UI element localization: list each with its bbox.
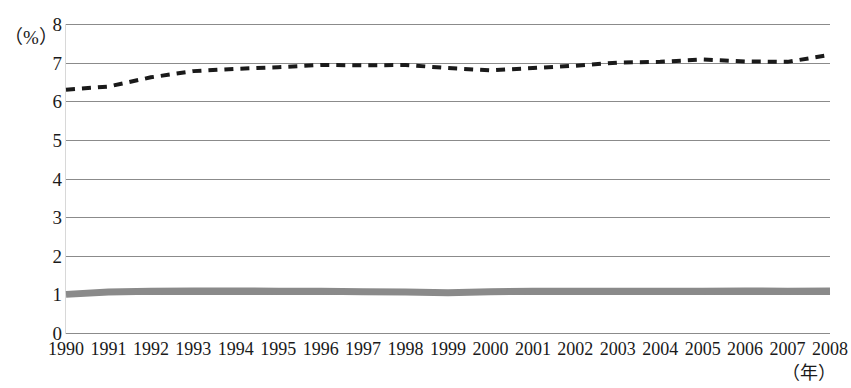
x-axis-tick-labels: 1990199119921993199419951996199719981999…: [66, 340, 830, 366]
x-tick-label: 1990: [45, 340, 87, 358]
y-tick-label: 4: [36, 170, 62, 189]
x-tick-label: 2007: [766, 340, 808, 358]
gridline: [66, 333, 830, 334]
x-tick-label: 2006: [724, 340, 766, 358]
x-tick-label: 1993: [172, 340, 214, 358]
cropped-title-remnant: [140, 0, 400, 2]
series-line-solid-gray-series: [66, 291, 830, 294]
x-tick-label: 2002: [554, 340, 596, 358]
y-tick-label: 3: [36, 208, 62, 227]
y-tick-label: 7: [36, 54, 62, 73]
x-tick-label: 2008: [809, 340, 851, 358]
x-tick-label: 1998: [384, 340, 426, 358]
x-tick-label: 2001: [512, 340, 554, 358]
y-tick-label: 8: [36, 15, 62, 34]
x-tick-label: 1991: [87, 340, 129, 358]
x-tick-label: 1995: [257, 340, 299, 358]
y-axis-tick-labels: 876543210: [30, 24, 62, 333]
x-tick-label: 1999: [427, 340, 469, 358]
x-tick-label: 1996: [299, 340, 341, 358]
plot-area: [66, 24, 830, 333]
y-tick-label: 1: [36, 285, 62, 304]
x-tick-label: 1997: [342, 340, 384, 358]
y-tick-label: 2: [36, 247, 62, 266]
x-tick-label: 2000: [469, 340, 511, 358]
x-tick-label: 2004: [639, 340, 681, 358]
x-tick-label: 1994: [215, 340, 257, 358]
series-line-dashed-series: [66, 55, 830, 90]
y-tick-label: 5: [36, 131, 62, 150]
x-axis-unit-label: （年）: [782, 364, 836, 382]
x-tick-label: 1992: [130, 340, 172, 358]
y-tick-label: 6: [36, 92, 62, 111]
x-tick-label: 2003: [597, 340, 639, 358]
series-layer: [66, 24, 830, 333]
x-tick-label: 2005: [681, 340, 723, 358]
